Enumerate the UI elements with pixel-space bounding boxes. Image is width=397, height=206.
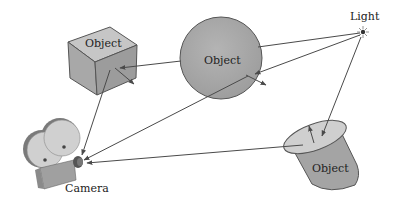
cylinder-label: Object (312, 163, 349, 174)
light-label: Light (350, 11, 379, 22)
sphere-label: Object (204, 55, 241, 66)
camera-label: Camera (65, 183, 109, 194)
cube-label: Object (85, 38, 122, 49)
ray-cylinder-to-camera (87, 145, 303, 163)
diagram-canvas (0, 0, 397, 206)
ray-light-to-sphere-top (258, 33, 360, 47)
ray-light-to-sphere (255, 35, 360, 74)
light-source-icon (357, 26, 369, 38)
cylinder-object (280, 113, 359, 189)
ray-tracing-diagram: Object Object Object Light Camera (0, 0, 397, 206)
movie-camera-icon (23, 118, 83, 189)
